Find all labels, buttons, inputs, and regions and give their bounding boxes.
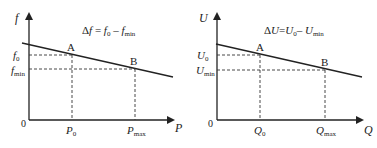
y-tick-umin: Umin: [196, 64, 215, 78]
x-tick-qmax: Qmax: [316, 124, 337, 138]
y-axis-label: f: [15, 11, 20, 25]
x-tick-pmax: Pmax: [126, 124, 146, 138]
delta-u-formula: ΔU=U0– Umin: [264, 24, 324, 38]
f-p-droop-chart: f P 0 f0 fmin P0 Pmax A B Δf = f0 – fmin: [11, 11, 183, 138]
u-q-droop-chart: U Q 0 U0 Umin Q0 Qmax A B ΔU=U0– Umin: [196, 11, 373, 138]
point-b-label: B: [321, 56, 328, 68]
point-a-label: A: [67, 41, 75, 53]
droop-line: [216, 44, 362, 77]
x-axis-label: P: [174, 121, 183, 135]
y-tick-u0: U0: [197, 49, 209, 63]
x-tick-p0: P0: [65, 124, 77, 138]
y-axis-label: U: [199, 11, 209, 25]
droop-line: [22, 43, 173, 77]
y-tick-f0: f0: [13, 49, 20, 63]
point-a-label: A: [256, 41, 264, 53]
y-tick-fmin: fmin: [11, 64, 25, 78]
x-axis-label: Q: [364, 123, 373, 137]
droop-characteristic-figure: f P 0 f0 fmin P0 Pmax A B Δf = f0 – fmin: [0, 0, 377, 148]
x-tick-q0: Q0: [254, 124, 266, 138]
origin-label: 0: [21, 118, 26, 129]
delta-f-formula: Δf = f0 – fmin: [82, 24, 136, 38]
point-b-label: B: [130, 55, 137, 67]
origin-label: 0: [208, 118, 213, 129]
